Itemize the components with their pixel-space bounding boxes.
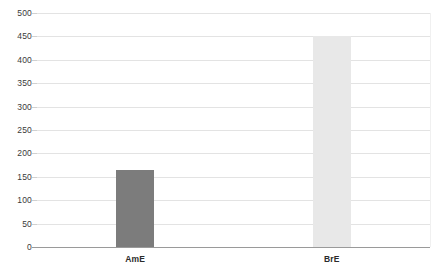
gridline [37, 153, 430, 154]
y-axis-tick-label: 450 [0, 32, 32, 41]
y-axis-tick-label: 200 [0, 149, 32, 158]
y-axis-tick-label: 0 [0, 243, 32, 252]
y-axis-tick-label: 150 [0, 173, 32, 182]
axis-baseline [37, 247, 430, 248]
x-axis-label-ame: AmE [125, 255, 145, 264]
gridline [37, 60, 430, 61]
gridline [37, 83, 430, 84]
y-axis-tick-label: 250 [0, 126, 32, 135]
y-axis-tick-label: 50 [0, 219, 32, 228]
gridline [37, 200, 430, 201]
bar-chart: 050100150200250300350400450500 AmEBrE [0, 0, 443, 277]
y-axis-tick-label: 350 [0, 79, 32, 88]
gridline [37, 13, 430, 14]
gridline [37, 224, 430, 225]
plot-area [37, 13, 430, 247]
gridline [37, 177, 430, 178]
gridline [37, 130, 430, 131]
gridline [37, 36, 430, 37]
gridline [37, 107, 430, 108]
y-axis-tick-label: 300 [0, 102, 32, 111]
y-axis-tick-label: 400 [0, 56, 32, 65]
bar-ame[interactable] [116, 170, 154, 247]
y-axis-tick-label: 500 [0, 9, 32, 18]
plot-right-border [430, 13, 431, 247]
x-axis-label-bre: BrE [324, 255, 340, 264]
bar-bre[interactable] [313, 36, 351, 247]
y-axis-tick-label: 100 [0, 196, 32, 205]
